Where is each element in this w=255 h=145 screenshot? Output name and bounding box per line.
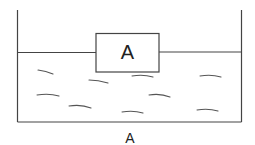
ripple-icon [37, 94, 59, 96]
ripple-icon [89, 80, 108, 83]
ripple-icon [69, 105, 91, 108]
ripple-icon [200, 75, 221, 77]
block-a-label: A [121, 41, 135, 63]
ripple-icon [132, 75, 153, 77]
ripple-icon [122, 111, 143, 113]
water-ripples [37, 70, 221, 113]
ripple-icon [38, 70, 53, 74]
ripple-icon [197, 109, 218, 111]
caption-label: A [125, 130, 135, 145]
floating-block-diagram: A A [0, 0, 255, 145]
ripple-icon [149, 94, 170, 97]
